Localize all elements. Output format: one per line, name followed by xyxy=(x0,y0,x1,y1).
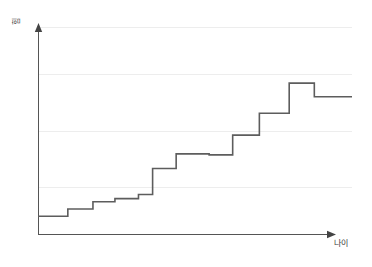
step-chart xyxy=(0,0,372,267)
chart-background xyxy=(0,0,372,267)
chart-container: 힘 나이 xyxy=(0,0,372,267)
y-axis-label: 힘 xyxy=(13,18,21,25)
x-axis-label: 나이 xyxy=(334,240,348,248)
